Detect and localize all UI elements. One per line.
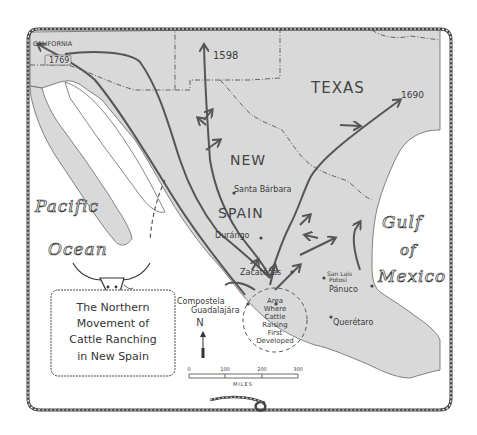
label-potosi: Potosí — [329, 276, 347, 283]
svg-text:100: 100 — [220, 366, 230, 372]
label-guadalajara: Guadalajára — [191, 306, 240, 315]
label-new: NEW — [230, 152, 266, 168]
label-date-1598: 1598 — [213, 50, 238, 61]
dot-panuco — [370, 284, 373, 287]
label-mexico: Mexico — [377, 266, 446, 286]
label-ocean: Ocean — [48, 239, 108, 259]
svg-text:200: 200 — [257, 366, 267, 372]
svg-text:300: 300 — [293, 366, 303, 372]
svg-text:First: First — [268, 329, 283, 337]
label-california: CALIFORNIA — [33, 40, 73, 48]
svg-text:Raising: Raising — [262, 321, 287, 329]
label-texas: TEXAS — [310, 79, 365, 97]
label-panuco: Pánuco — [329, 285, 358, 294]
dot-san-luis-potosi — [322, 276, 325, 279]
scale-unit: MILES — [233, 381, 253, 387]
svg-text:0: 0 — [187, 366, 190, 372]
svg-text:Where: Where — [264, 305, 287, 313]
title-line-4: in New Spain — [77, 350, 149, 363]
title-line-3: Cattle Ranching — [69, 333, 157, 346]
label-queretaro: Querétaro — [333, 317, 373, 327]
compass-label: N — [196, 317, 203, 328]
svg-text:Cattle: Cattle — [265, 313, 286, 321]
map-container: CALIFORNIA 1769 1598 TEXAS 1690 NEW SPAI… — [0, 0, 477, 435]
label-gulf: Gulf — [382, 212, 424, 232]
label-pacific: Pacific — [34, 196, 99, 216]
north-arrow: N — [196, 317, 206, 358]
label-of: of — [400, 241, 418, 259]
label-compostela: Compostela — [177, 297, 225, 306]
branch-arrow-4 — [340, 125, 360, 126]
label-spain: SPAIN — [218, 205, 264, 221]
label-date-1769: 1769 — [49, 56, 69, 65]
svg-text:Developed: Developed — [256, 337, 294, 345]
scale-bar: 0 100 200 300 MILES — [187, 366, 302, 387]
cattle-ranching-map: CALIFORNIA 1769 1598 TEXAS 1690 NEW SPAI… — [0, 0, 477, 435]
title-line-1: The Northern — [76, 301, 150, 314]
dot-compostela — [246, 302, 249, 305]
label-zacatecas: Zacatécas — [240, 267, 281, 277]
label-date-1690: 1690 — [401, 90, 424, 100]
rope-knot-icon — [210, 397, 265, 410]
label-durango: Durángo — [215, 231, 250, 240]
svg-text:Area: Area — [267, 297, 283, 305]
dot-durango — [259, 236, 262, 239]
label-santa-barbara: Santa Bárbara — [234, 185, 292, 194]
title-line-2: Movement of — [77, 317, 150, 330]
dot-zacatecas — [290, 270, 293, 273]
